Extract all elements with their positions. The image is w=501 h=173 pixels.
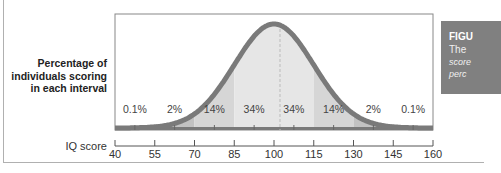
percent-label: 2% bbox=[167, 103, 182, 115]
x-tick-label: 55 bbox=[149, 148, 161, 160]
x-tick-label: 145 bbox=[384, 148, 402, 160]
x-axis-label: IQ score bbox=[60, 140, 107, 152]
x-tick-label: 40 bbox=[109, 148, 121, 160]
percent-label: 2% bbox=[366, 103, 381, 115]
x-tick-label: 115 bbox=[305, 148, 323, 160]
percent-label: 34% bbox=[244, 103, 265, 115]
caption-title: FIGU bbox=[449, 31, 473, 42]
x-tick-label: 160 bbox=[424, 148, 442, 160]
caption-line-2: score bbox=[449, 57, 471, 67]
x-tick-label: 130 bbox=[344, 148, 362, 160]
percent-label: 34% bbox=[283, 103, 304, 115]
percent-label: 14% bbox=[204, 103, 225, 115]
x-tick-label: 85 bbox=[228, 148, 240, 160]
figure-caption-box: FIGU The score perc bbox=[441, 21, 501, 94]
x-axis-ticks: 40557085100115130145160 bbox=[109, 140, 442, 160]
x-tick-label: 70 bbox=[188, 148, 200, 160]
caption-line-1: The bbox=[449, 44, 466, 55]
percent-label: 14% bbox=[323, 103, 344, 115]
percent-label: 0.1% bbox=[123, 103, 147, 115]
percent-label: 0.1% bbox=[401, 103, 425, 115]
caption-line-3: perc bbox=[449, 69, 467, 79]
x-tick-label: 100 bbox=[265, 148, 283, 160]
